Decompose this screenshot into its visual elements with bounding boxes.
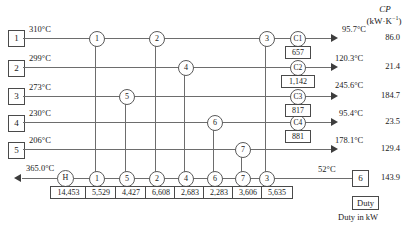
match-connector-5 <box>125 96 126 178</box>
hot-stream-line-4 <box>23 122 333 123</box>
cp-value-6: 143.9 <box>366 172 400 182</box>
cold-node-2[interactable]: 2 <box>149 171 165 187</box>
cold-duty-1: 5,529 <box>85 186 117 199</box>
cold-node-6[interactable]: 6 <box>207 171 223 187</box>
outlet-temp-5: 178.1°C <box>335 135 363 145</box>
hot-stream-arrow-1 <box>331 34 338 42</box>
match-connector-1 <box>95 38 96 178</box>
cp-units-prefix: (kW·K <box>367 16 393 26</box>
cold-node-5[interactable]: 5 <box>119 171 135 187</box>
cp-header-symbol: CP <box>364 4 406 14</box>
cooler-node-c4[interactable]: C4 <box>290 115 306 131</box>
match-node-hot-6[interactable]: 6 <box>207 115 223 131</box>
stream-id-box-2: 2 <box>8 60 25 77</box>
cold-outlet-temp: 365.0°C <box>26 163 54 173</box>
cp-value-2: 21.4 <box>366 61 400 71</box>
cp-value-3: 184.7 <box>366 90 400 100</box>
inlet-temp-3: 273°C <box>29 82 51 92</box>
hen-grid-diagram: 1 310°C 95.7°C 2 299°C 120.3°C 3 273°C 2… <box>0 0 410 227</box>
cooler-node-c1[interactable]: C1 <box>290 31 306 47</box>
cooler-node-c3[interactable]: C3 <box>290 89 306 105</box>
cold-stream-arrow-6 <box>14 174 21 182</box>
hot-stream-arrow-2 <box>331 63 338 71</box>
inlet-temp-5: 206°C <box>29 135 51 145</box>
match-node-hot-5[interactable]: 5 <box>119 89 135 105</box>
cp-value-5: 129.4 <box>366 143 400 153</box>
hot-stream-line-3 <box>23 96 333 97</box>
match-node-hot-3[interactable]: 3 <box>259 31 275 47</box>
inlet-temp-1: 310°C <box>29 24 51 34</box>
cold-duty-3: 5,635 <box>261 186 293 199</box>
hot-stream-line-1 <box>23 38 333 39</box>
cp-value-4: 23.5 <box>366 116 400 126</box>
stream-id-box-4: 4 <box>8 115 25 132</box>
cold-duty-5: 4,427 <box>115 186 147 199</box>
cp-units-suffix: ) <box>398 16 401 26</box>
cold-duty-h: 14,453 <box>50 186 87 199</box>
inlet-temp-2: 299°C <box>29 53 51 63</box>
hot-stream-arrow-5 <box>331 145 338 153</box>
match-connector-2 <box>155 38 156 178</box>
outlet-temp-4: 95.4°C <box>339 108 363 118</box>
cold-duty-6: 2,283 <box>203 186 235 199</box>
hot-utility-node-h[interactable]: H <box>57 170 74 187</box>
match-node-hot-7[interactable]: 7 <box>235 142 251 158</box>
match-node-hot-2[interactable]: 2 <box>149 31 165 47</box>
match-node-hot-1[interactable]: 1 <box>89 31 105 47</box>
cooler-duty-c3: 817 <box>285 104 311 117</box>
match-node-hot-4[interactable]: 4 <box>178 60 194 76</box>
cooler-node-c2[interactable]: C2 <box>290 60 306 76</box>
cp-value-1: 86.0 <box>366 32 400 42</box>
outlet-temp-3: 245.6°C <box>335 80 363 90</box>
inlet-temp-4: 230°C <box>29 108 51 118</box>
match-connector-4 <box>184 67 185 178</box>
cold-duty-7: 3,606 <box>232 186 264 199</box>
cold-duty-2: 6,608 <box>145 186 177 199</box>
cold-node-3[interactable]: 3 <box>259 171 275 187</box>
outlet-temp-2: 120.3°C <box>335 53 363 63</box>
hot-stream-arrow-4 <box>331 118 338 126</box>
cooler-duty-c1: 657 <box>285 46 311 59</box>
stream-id-box-5: 5 <box>8 142 25 159</box>
cooler-duty-c4: 881 <box>285 130 311 143</box>
cold-duty-4: 2,683 <box>174 186 206 199</box>
cold-node-7[interactable]: 7 <box>235 171 251 187</box>
hot-stream-line-5 <box>23 149 333 150</box>
cold-node-4[interactable]: 4 <box>178 171 194 187</box>
duty-legend-note: Duty in kW <box>338 212 378 222</box>
cooler-duty-c2: 1,142 <box>281 75 315 88</box>
duty-legend-box: Duty <box>352 196 379 210</box>
cold-node-1[interactable]: 1 <box>89 171 105 187</box>
match-connector-3 <box>265 38 266 178</box>
outlet-temp-1: 95.7°C <box>342 24 366 34</box>
hot-stream-arrow-3 <box>331 92 338 100</box>
cold-inlet-temp: 52°C <box>318 164 336 174</box>
